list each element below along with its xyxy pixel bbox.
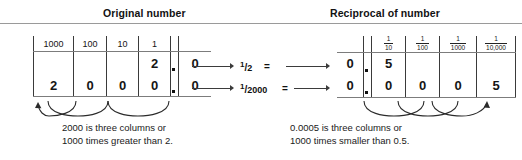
diagram-root: Original number Reciprocal of number 100…	[0, 0, 522, 160]
caption-original-line1: 2000 is three columns or	[62, 122, 173, 135]
fraction-ten-thousandths: 1 10,000	[484, 36, 508, 51]
place-value-table-reciprocal: 1 10 1 100 1 1000	[337, 36, 516, 98]
arc-hop-2	[398, 101, 458, 116]
arc-hop-3	[432, 101, 487, 116]
cell-hundreds-row2: 0	[74, 74, 107, 97]
equals-sign-row1: =	[264, 61, 270, 72]
equals-sign-row2: =	[282, 83, 288, 94]
cell-decimal-point-row1	[364, 52, 372, 75]
caption-original-line2: 1000 times greater than 2.	[62, 135, 173, 148]
cell-tenthousandths-row1	[477, 52, 516, 75]
cell-thousandths-row1	[440, 52, 477, 75]
cell-units-row2: 0	[139, 74, 171, 97]
cell-decimal-point-row2	[364, 75, 372, 98]
connector-arrowhead-row2-right	[326, 85, 330, 91]
place-value-table-original: 1000 100 10 1 2 0 2 0 0 0 0	[33, 36, 211, 97]
cell-hundreds-row1	[74, 52, 107, 75]
column-header-units: 1	[139, 36, 171, 52]
arcs-svg-right	[362, 100, 502, 120]
fraction-label-one-two-thousandth: 1/2000	[240, 82, 267, 95]
cell-thousands-row1	[34, 52, 74, 75]
table-row-point-0005: 0 0 0 0 5	[337, 75, 516, 98]
table-row-point-five: 0 5	[337, 52, 516, 75]
column-header-tenths: 1 10	[372, 36, 406, 52]
column-header-hundredths: 1 100	[406, 36, 440, 52]
arc-hop-1	[364, 101, 424, 116]
panel-title-reciprocal: Reciprocal of number	[330, 7, 440, 19]
column-shift-arcs-right	[362, 100, 502, 120]
cell-units-row2: 0	[337, 75, 364, 98]
cell-tenths-row2: 0	[179, 74, 212, 97]
fraction-label-one-half: 1/2	[240, 60, 252, 73]
cell-decimal-point-row2	[171, 74, 179, 97]
column-header-thousands: 1000	[34, 36, 74, 52]
cell-hundredths-row2: 0	[406, 75, 440, 98]
connector-line-row2-left	[192, 88, 230, 89]
caption-original: 2000 is three columns or 1000 times grea…	[62, 122, 173, 147]
fraction-denominator: 2	[247, 63, 252, 73]
cell-tenths-row1: 5	[372, 52, 406, 75]
cell-thousands-row2: 2	[34, 74, 74, 97]
arcs-svg-left	[36, 100, 172, 120]
column-header-units-blank	[337, 36, 364, 52]
cell-tens-row1	[107, 52, 139, 75]
column-header-decimal-point	[171, 36, 179, 52]
cell-thousandths-row2: 0	[440, 75, 477, 98]
column-header-ten-thousandths: 1 10,000	[477, 36, 516, 52]
connector-arrowhead-row1-right	[326, 63, 330, 69]
arc-hop-2	[48, 101, 108, 116]
fraction-denominator: 2000	[247, 85, 267, 95]
panel-title-original: Original number	[103, 7, 186, 19]
cell-tenthousandths-row2: 5	[477, 75, 516, 98]
arc-hop-1	[38, 101, 76, 116]
column-header-tenths-blank	[179, 36, 212, 52]
column-header-tens: 10	[107, 36, 139, 52]
decimal-point-dot	[172, 68, 175, 71]
connector-line-row2-right	[294, 88, 326, 89]
caption-reciprocal: 0.0005 is three columns or 1000 times sm…	[290, 122, 409, 147]
decimal-point-dot	[365, 91, 368, 94]
arc-hop-3	[108, 101, 169, 116]
connector-arrowhead-row2-left	[230, 85, 234, 91]
decimal-point-dot	[172, 90, 175, 93]
cell-tens-row2: 0	[107, 74, 139, 97]
connector-line-row1-left	[192, 66, 230, 67]
table-row-2000: 2 0 0 0 0	[34, 74, 212, 97]
connector-line-row1-right	[286, 66, 326, 67]
fraction-thousandths: 1 1000	[449, 36, 467, 51]
cell-tenths-row2: 0	[372, 75, 406, 98]
cell-decimal-point-row1	[171, 52, 179, 75]
cell-units-row1: 0	[337, 52, 364, 75]
caption-reciprocal-line2: 1000 times smaller than 0.5.	[290, 135, 409, 148]
column-header-decimal-point	[364, 36, 372, 52]
cell-units-row1: 2	[139, 52, 171, 75]
arrowhead-right	[484, 101, 490, 108]
decimal-point-dot	[365, 69, 368, 72]
column-header-hundreds: 100	[74, 36, 107, 52]
connector-arrowhead-row1-left	[230, 63, 234, 69]
fraction-tenths: 1 10	[383, 36, 394, 51]
title-divider-rule	[0, 23, 522, 24]
fraction-hundredths: 1 100	[415, 36, 430, 51]
table-row-half: 2 0	[34, 52, 212, 75]
column-shift-arcs-left	[36, 100, 172, 120]
cell-hundredths-row1	[406, 52, 440, 75]
column-header-thousandths: 1 1000	[440, 36, 477, 52]
caption-reciprocal-line1: 0.0005 is three columns or	[290, 122, 409, 135]
table-header-row: 1 10 1 100 1 1000	[337, 36, 516, 52]
table-header-row: 1000 100 10 1	[34, 36, 212, 52]
arrowhead-left	[35, 102, 41, 108]
cell-tenths-row1: 0	[179, 52, 212, 75]
